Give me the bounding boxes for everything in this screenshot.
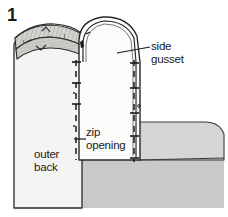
label-side-gusset: side gusset bbox=[151, 40, 184, 66]
illustration-drawing bbox=[0, 0, 228, 217]
lower-grey-body bbox=[78, 158, 224, 208]
label-outer-back: outer back bbox=[34, 148, 59, 174]
step-number: 1 bbox=[7, 5, 17, 25]
side-panel bbox=[139, 122, 224, 160]
label-zip-opening: zip opening bbox=[86, 126, 126, 152]
outer-back-panel bbox=[14, 28, 82, 208]
illustration-figure: 1 side gusset zip opening outer back bbox=[0, 0, 228, 217]
